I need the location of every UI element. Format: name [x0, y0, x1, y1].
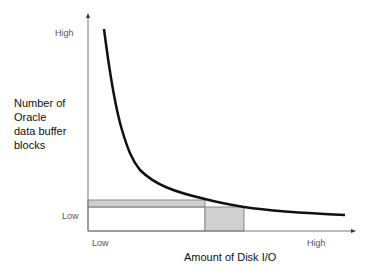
y-axis-title: Number of Oracle data buffer blocks	[14, 96, 94, 152]
x-axis-arrow-icon	[351, 229, 356, 233]
x-tick-low: Low	[92, 238, 109, 248]
horizontal-shaded-band	[88, 200, 205, 207]
y-title-line: Number of	[14, 96, 94, 110]
y-tick-low: Low	[62, 211, 79, 221]
horizontal-outline-band	[88, 207, 205, 231]
y-tick-high: High	[55, 28, 74, 38]
x-axis-title: Amount of Disk I/O	[184, 251, 276, 263]
y-title-line: Oracle	[14, 110, 94, 124]
buffer-io-curve	[104, 29, 345, 215]
x-tick-high: High	[307, 238, 326, 248]
vertical-shaded-band	[205, 207, 244, 231]
y-title-line: data buffer	[14, 124, 94, 138]
y-title-line: blocks	[14, 138, 94, 152]
y-axis-arrow-icon	[86, 13, 90, 18]
